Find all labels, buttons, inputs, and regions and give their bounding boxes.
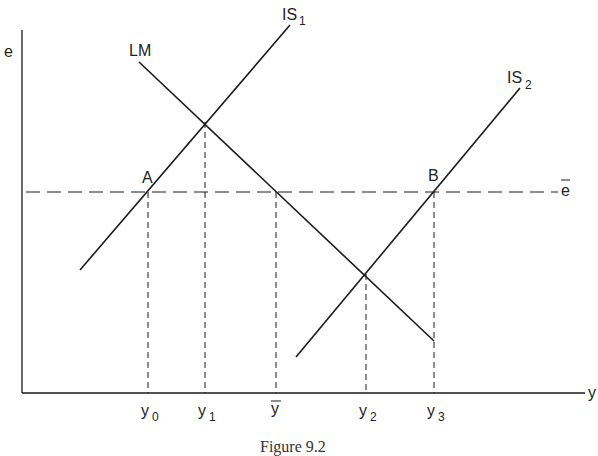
figure-caption: Figure 9.2 <box>260 438 326 456</box>
e-bar-label: e <box>561 182 570 199</box>
tick-y1: y <box>198 402 206 419</box>
is1-label: IS <box>282 6 297 23</box>
is2-subscript: 2 <box>525 78 532 92</box>
x-axis-label: y <box>588 384 596 401</box>
tick-y2-sub: 2 <box>370 410 377 424</box>
lm-curve <box>139 62 434 341</box>
lm-label: LM <box>129 42 151 59</box>
point-b-label: B <box>428 167 439 184</box>
y-axis-label: e <box>4 43 13 60</box>
is1-curve <box>80 25 290 270</box>
tick-y0: y <box>141 402 149 419</box>
tick-y1-sub: 1 <box>209 410 216 424</box>
point-a-label: A <box>142 169 153 186</box>
is-lm-diagram: e y e IS 1 LM IS 2 A B y 0 y 1 y y 2 y 3… <box>0 0 598 456</box>
is2-label: IS <box>507 69 522 86</box>
tick-ybar: y <box>271 400 279 417</box>
tick-y3-sub: 3 <box>438 410 445 424</box>
tick-y0-sub: 0 <box>152 410 159 424</box>
tick-y3: y <box>427 402 435 419</box>
tick-y2: y <box>359 402 367 419</box>
is1-subscript: 1 <box>299 14 306 28</box>
